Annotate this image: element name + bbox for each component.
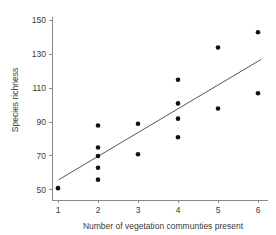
data-point [136, 152, 141, 157]
x-axis-label: Number of vegetation communties present [83, 221, 244, 231]
data-point [176, 116, 181, 121]
y-axis-ticks: 507090110130150 [32, 15, 52, 194]
x-tick-label: 2 [96, 205, 101, 215]
x-tick-label: 6 [256, 205, 261, 215]
y-axis-label: Species richness [10, 68, 20, 132]
data-point [216, 106, 221, 111]
axes [52, 17, 268, 200]
plot-canvas: 507090110130150 123456 Number of vegetat… [0, 0, 276, 235]
axis-lines [52, 17, 268, 200]
data-points-group [56, 30, 261, 190]
data-point [256, 30, 261, 35]
data-point [136, 121, 141, 126]
x-tick-label: 3 [136, 205, 141, 215]
x-tick-label: 5 [216, 205, 221, 215]
data-point [96, 154, 101, 159]
data-point [176, 101, 181, 106]
trendline-group [59, 59, 261, 179]
data-point [96, 145, 101, 150]
data-point [56, 186, 61, 191]
x-tick-label: 4 [176, 205, 181, 215]
y-tick-label: 90 [37, 117, 47, 127]
regression-line [59, 59, 261, 179]
data-point [256, 91, 261, 96]
data-point [216, 45, 221, 50]
data-point [96, 166, 101, 171]
x-tick-label: 1 [56, 205, 61, 215]
scatter-plot-figure: 507090110130150 123456 Number of vegetat… [0, 0, 276, 235]
y-tick-label: 150 [32, 15, 46, 25]
data-point [96, 177, 101, 182]
data-point [96, 123, 101, 128]
y-tick-label: 130 [32, 49, 46, 59]
data-point [176, 77, 181, 82]
y-tick-label: 50 [37, 185, 47, 195]
y-tick-label: 70 [37, 151, 47, 161]
y-tick-label: 110 [32, 83, 46, 93]
x-axis-ticks: 123456 [56, 200, 261, 215]
data-point [176, 135, 181, 140]
